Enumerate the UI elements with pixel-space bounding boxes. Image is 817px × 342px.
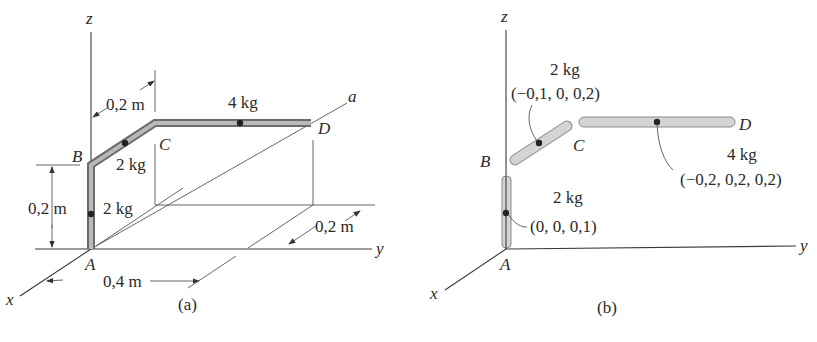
leader-bc [529,105,537,141]
mass-bc-a: 2 kg [116,155,146,174]
x-axis-a [20,249,91,296]
centroid-cd-a [237,120,243,126]
x-axis-label-a: x [5,290,14,309]
y-axis-b [506,246,796,249]
mass-cd-a: 4 kg [228,93,258,112]
dim-04-label: 0,4 m [103,272,142,291]
x-axis-label-b: x [429,284,438,303]
point-b-b: B [480,152,491,171]
point-c-b: C [573,136,585,155]
mass-ab-a: 2 kg [103,199,133,218]
d-foot-diag [248,205,313,248]
mass-ab-b: 2 kg [553,188,583,207]
figure: z y x a 0,2 m 0,2 m 0,4 m [0,0,817,342]
x-axis-b [445,249,506,290]
point-a-b: A [499,255,511,274]
point-b-a: B [72,147,83,166]
point-d-a: D [317,119,331,138]
point-d-b: D [738,115,752,134]
caption-a: (a) [178,295,197,314]
y-axis-label-a: y [374,239,384,258]
caption-b: (b) [597,298,617,317]
dim-arrow-bc-1 [93,108,107,117]
centroid-ab-a [88,211,94,217]
leader-cd [657,124,673,170]
dim-arrow-d1 [289,226,316,244]
mass-cd-b: 4 kg [727,145,757,164]
y-axis-label-b: y [798,236,808,255]
centroid-ab-b [503,210,509,216]
point-c-a: C [159,135,171,154]
dim-arrow-bc-2 [140,81,154,90]
point-a-a: A [84,255,96,274]
z-axis-label-b: z [500,7,508,26]
mass-bc-b: 2 kg [550,60,580,79]
dim-arrow-04-left [47,280,63,281]
dim-ab-label: 0,2 m [28,199,67,218]
centroid-ab-label: (0, 0, 0,1) [530,217,597,236]
dim-d-label: 0,2 m [315,217,354,236]
dim-ext-04 [188,256,236,288]
centroid-bc-a [122,140,128,146]
z-axis-label-a: z [85,9,93,28]
centroid-bc-label: (−0,1, 0, 0,2) [511,84,600,103]
panel-b: z y x 2 kg (0, 0, 0,1) 2 kg (−0,1, 0, 0,… [429,7,808,317]
panel-a: z y x a 0,2 m 0,2 m 0,4 m [5,9,384,314]
centroid-cd-label: (−0,2, 0,2, 0,2) [680,170,782,189]
axis-a-label: a [348,87,357,106]
dim-bc-label: 0,2 m [106,95,145,114]
